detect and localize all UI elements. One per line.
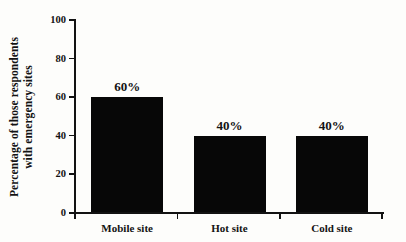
- y-axis-tick-label: 80: [36, 53, 66, 65]
- bar-value-label-cold-site: 40%: [302, 118, 362, 133]
- y-axis-tick-label: 60: [36, 91, 66, 103]
- x-axis-tick: [74, 214, 76, 219]
- bar-hot-site: [194, 136, 266, 212]
- x-axis-category-label-hot-site: Hot site: [185, 222, 275, 235]
- x-axis-tick: [177, 214, 179, 219]
- y-axis-title-line2: with emergency sites: [21, 18, 35, 216]
- y-axis-title: Percentage of those respondents with eme…: [7, 18, 37, 216]
- y-axis: [74, 19, 76, 216]
- y-axis-tick-label: 100: [36, 14, 66, 26]
- bar-cold-site: [296, 136, 368, 212]
- y-axis-tick-label: 40: [36, 130, 66, 142]
- y-axis-tick: [69, 135, 74, 137]
- y-axis-title-line1: Percentage of those respondents: [7, 18, 21, 216]
- bar-chart: Percentage of those respondents with eme…: [0, 0, 406, 242]
- y-axis-tick: [69, 212, 74, 214]
- x-axis-tick: [279, 214, 281, 219]
- x-axis: [74, 212, 384, 214]
- bar-value-label-hot-site: 40%: [200, 118, 260, 133]
- x-axis-category-label-cold-site: Cold site: [287, 222, 377, 235]
- bar-mobile-site: [91, 97, 163, 212]
- y-axis-tick: [69, 58, 74, 60]
- y-axis-tick: [69, 173, 74, 175]
- bar-value-label-mobile-site: 60%: [97, 79, 157, 94]
- y-axis-tick: [69, 19, 74, 21]
- y-axis-tick-label: 0: [36, 207, 66, 219]
- y-axis-tick-label: 20: [36, 168, 66, 180]
- y-axis-tick: [69, 96, 74, 98]
- x-axis-category-label-mobile-site: Mobile site: [82, 222, 172, 235]
- x-axis-tick: [381, 214, 383, 219]
